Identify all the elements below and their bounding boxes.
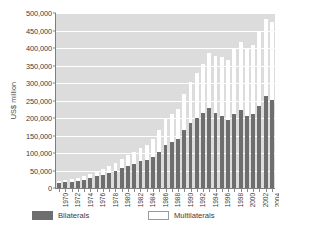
bar-segment-bilaterals xyxy=(114,171,118,189)
x-tick-mark xyxy=(166,189,167,192)
y-tick-label: 250,000 xyxy=(26,96,52,105)
x-tick-mark xyxy=(140,189,141,192)
bar-group xyxy=(176,109,180,188)
bar-group xyxy=(120,159,124,188)
x-tick-mark xyxy=(115,189,116,192)
x-tick-label: 1992 xyxy=(199,193,206,207)
bar-group xyxy=(57,181,61,188)
x-tick-mark xyxy=(172,189,173,192)
x-tick-mark xyxy=(122,189,123,192)
bar-group xyxy=(195,73,199,188)
bar-group xyxy=(220,57,224,188)
x-tick-label: 1994 xyxy=(212,193,219,207)
bar-group xyxy=(251,45,255,189)
x-tick-mark xyxy=(209,189,210,192)
bar-segment-bilaterals xyxy=(145,160,149,188)
bar-group xyxy=(189,82,193,188)
bar-group xyxy=(114,163,118,188)
x-tick-label: 1980 xyxy=(124,193,131,207)
bar-group xyxy=(132,152,136,188)
x-tick-mark xyxy=(59,189,60,192)
bar-segment-multilaterals xyxy=(214,56,218,113)
y-tick-label: 50,000 xyxy=(30,166,52,175)
x-tick-mark xyxy=(222,189,223,192)
y-tick-label: 500,000 xyxy=(26,9,52,18)
bar-group xyxy=(101,169,105,188)
bar-segment-bilaterals xyxy=(182,130,186,188)
bar-segment-bilaterals xyxy=(264,96,268,188)
bar-segment-bilaterals xyxy=(76,181,80,188)
x-tick-mark xyxy=(109,189,110,192)
y-axis-line xyxy=(55,13,56,189)
x-tick-mark xyxy=(78,189,79,192)
x-tick-label: 1984 xyxy=(149,193,156,207)
bar-segment-bilaterals xyxy=(201,113,205,188)
y-tick-label: 450,000 xyxy=(26,26,52,35)
bar-group xyxy=(95,172,99,188)
x-tick-label: 2000 xyxy=(249,193,256,207)
bar-segment-multilaterals xyxy=(220,57,224,116)
bar-group xyxy=(164,119,168,188)
bar-segment-bilaterals xyxy=(251,114,255,188)
legend-label-bilaterals: Bilaterals xyxy=(58,211,89,220)
bar-segment-bilaterals xyxy=(189,123,193,188)
bar-segment-multilaterals xyxy=(257,32,261,107)
y-tick-label: 0 xyxy=(48,184,52,193)
x-tick-mark xyxy=(128,189,129,192)
x-tick-mark xyxy=(147,189,148,192)
bar-segment-multilaterals xyxy=(164,119,168,145)
y-tick-label: 150,000 xyxy=(26,131,52,140)
bar-segment-bilaterals xyxy=(176,139,180,188)
x-tick-mark xyxy=(203,189,204,192)
bar-segment-bilaterals xyxy=(126,166,130,188)
bar-segment-multilaterals xyxy=(264,19,268,96)
bar-segment-bilaterals xyxy=(170,142,174,188)
x-tick-mark xyxy=(84,189,85,192)
bar-segment-bilaterals xyxy=(95,176,99,188)
bar-group xyxy=(157,130,161,188)
bar-segment-multilaterals xyxy=(232,49,236,114)
x-tick-label: 1974 xyxy=(87,193,94,207)
bar-segment-multilaterals xyxy=(176,109,180,139)
x-tick-label: 1990 xyxy=(187,193,194,207)
bar-group xyxy=(107,166,111,188)
y-tick-label: 300,000 xyxy=(26,79,52,88)
x-tick-mark xyxy=(234,189,235,192)
bar-segment-bilaterals xyxy=(220,116,224,188)
bar-segment-multilaterals xyxy=(207,53,211,107)
x-tick-mark xyxy=(259,189,260,192)
bar-segment-multilaterals xyxy=(120,159,124,168)
bar-segment-bilaterals xyxy=(270,100,274,188)
x-tick-label: 1982 xyxy=(137,193,144,207)
bar-segment-bilaterals xyxy=(101,175,105,188)
bar-group xyxy=(182,94,186,188)
y-tick-label: 200,000 xyxy=(26,114,52,123)
bar-segment-bilaterals xyxy=(82,180,86,188)
x-tick-mark xyxy=(178,189,179,192)
legend-label-multilaterals: Multilaterals xyxy=(174,211,215,220)
x-tick-mark xyxy=(197,189,198,192)
bar-segment-bilaterals xyxy=(232,114,236,188)
x-tick-label: 1986 xyxy=(162,193,169,207)
bar-group xyxy=(82,176,86,188)
bar-group xyxy=(207,53,211,188)
bar-group xyxy=(214,56,218,188)
y-tick-label: 100,000 xyxy=(26,149,52,158)
bar-segment-bilaterals xyxy=(151,157,155,188)
bar-segment-multilaterals xyxy=(270,22,274,100)
bar-segment-multilaterals xyxy=(189,82,193,123)
bar-segment-multilaterals xyxy=(126,155,130,165)
x-tick-label: 1978 xyxy=(112,193,119,207)
x-tick-label: 1972 xyxy=(74,193,81,207)
bar-segment-multilaterals xyxy=(170,114,174,142)
bar-group xyxy=(139,148,143,188)
x-tick-label: 1998 xyxy=(237,193,244,207)
bar-segment-multilaterals xyxy=(157,130,161,152)
bar-segment-bilaterals xyxy=(88,178,92,188)
x-tick-mark xyxy=(241,189,242,192)
x-tick-mark xyxy=(134,189,135,192)
bar-group xyxy=(145,145,149,188)
x-tick-label: 2002 xyxy=(262,193,269,207)
bar-group xyxy=(151,139,155,188)
x-tick-mark xyxy=(153,189,154,192)
